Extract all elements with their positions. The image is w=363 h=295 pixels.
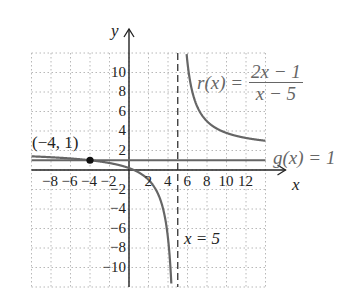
x-tick-label: −6 <box>62 174 78 189</box>
y-tick-label: −6 <box>110 221 126 236</box>
x-tick-label: 6 <box>184 174 192 189</box>
asymptote-label: x = 5 <box>184 230 220 247</box>
x-tick-label: 2 <box>145 174 153 189</box>
r-function-fraction: 2x − 1 x − 5 <box>249 62 303 103</box>
r-function-label: r(x) = 2x − 1 x − 5 <box>197 62 303 103</box>
y-axis-label: y <box>111 22 119 39</box>
r-denominator: x − 5 <box>256 83 296 103</box>
x-tick-label: −4 <box>81 174 97 189</box>
x-tick-label: 12 <box>238 174 253 189</box>
r-function-lhs: r(x) = <box>197 73 243 92</box>
x-tick-label: −8 <box>42 174 58 189</box>
g-function-label: g(x) = 1 <box>273 148 335 167</box>
y-tick-label: −2 <box>110 182 126 197</box>
y-tick-label: 8 <box>119 84 127 99</box>
point-marker <box>86 157 93 164</box>
y-tick-label: −10 <box>103 260 126 275</box>
y-tick-label: 4 <box>119 123 127 138</box>
r-numerator: 2x − 1 <box>249 62 303 83</box>
x-axis-label: x <box>292 176 300 193</box>
x-tick-label: 4 <box>164 174 172 189</box>
x-tick-label: 10 <box>219 174 234 189</box>
x-tick-label: 8 <box>203 174 211 189</box>
y-tick-label: −8 <box>110 240 126 255</box>
point-label: (−4, 1) <box>32 134 78 151</box>
y-tick-label: −4 <box>110 201 126 216</box>
y-tick-label: 2 <box>119 143 127 158</box>
y-tick-label: 6 <box>119 104 127 119</box>
y-tick-label: 10 <box>111 65 126 80</box>
